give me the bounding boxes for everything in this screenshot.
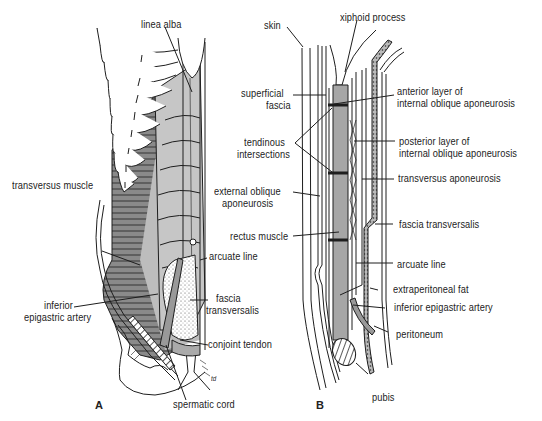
label-spermatic-cord: spermatic cord <box>173 399 235 410</box>
label-superficial-fascia-2: fascia <box>266 100 291 111</box>
label-external-oblique-aponeurosis-2: aponeurosis <box>222 198 273 209</box>
label-xiphoid-process: xiphoid process <box>340 12 406 23</box>
label-linea-alba: linea alba <box>141 19 181 30</box>
label-extraperitoneal-fat: extraperitoneal fat <box>393 284 469 295</box>
label-tendinous-intersections-2: intersections <box>237 149 290 160</box>
label-pubis: pubis <box>372 392 395 403</box>
label-artist-signature: td <box>211 373 216 384</box>
label-tendinous-intersections-1: tendinous <box>244 137 285 148</box>
label-superficial-fascia-1: superficial <box>241 88 284 99</box>
label-arcuate-line-b: arcuate line <box>397 259 446 270</box>
label-external-oblique-aponeurosis-1: external oblique <box>214 186 281 197</box>
label-posterior-layer-2: internal oblique aponeurosis <box>399 148 517 159</box>
panel-letter-b: B <box>316 399 324 411</box>
panel-b-drawing <box>287 20 404 390</box>
label-inferior-epigastric-artery-a-2: epigastric artery <box>24 312 91 323</box>
label-transversus-aponeurosis: transversus aponeurosis <box>398 173 501 184</box>
label-rectus-muscle: rectus muscle <box>230 231 288 242</box>
label-conjoint-tendon: conjoint tendon <box>208 339 272 350</box>
anatomy-figure: linea alba transversus muscle arcuate li… <box>0 0 542 421</box>
label-skin: skin <box>264 20 281 31</box>
panel-letter-a: A <box>95 399 103 411</box>
label-posterior-layer-1: posterior layer of <box>399 136 469 147</box>
label-fascia-transversalis-b: fascia transversalis <box>399 219 479 230</box>
label-fascia-transversalis-a-1: fascia <box>216 293 241 304</box>
label-peritoneum: peritoneum <box>396 329 443 340</box>
label-inferior-epigastric-artery-b: inferior epigastric artery <box>394 302 493 313</box>
illustration <box>0 0 542 421</box>
label-anterior-layer-1: anterior layer of <box>397 86 463 97</box>
label-transversus-muscle: transversus muscle <box>12 180 93 191</box>
label-inferior-epigastric-artery-a-1: inferior <box>44 300 73 311</box>
label-fascia-transversalis-a-2: transversalis <box>206 305 259 316</box>
label-arcuate-line-a: arcuate line <box>209 251 258 262</box>
panel-a-drawing <box>74 27 210 400</box>
label-anterior-layer-2: internal oblique aponeurosis <box>397 98 515 109</box>
